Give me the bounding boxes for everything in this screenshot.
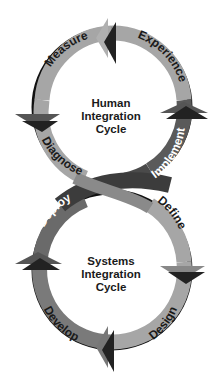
arrow-right-bottom-icon [160,266,205,284]
figure-eight-diagram: Measure Experience Implement Diagnose De… [0,0,223,383]
stage-experience: Experience [136,27,190,84]
arrow-left-top-icon [15,114,60,132]
human-integration-cycle-title: Human Integration Cycle [61,97,161,136]
arrow-left-bottom-icon [15,252,62,270]
arrow-bottom-icon [96,326,114,372]
arrow-top-icon [96,18,116,64]
arrow-right-top-icon [160,102,208,119]
systems-integration-cycle-title: Systems Integration Cycle [61,255,161,294]
stage-measure: Measure [42,28,90,69]
